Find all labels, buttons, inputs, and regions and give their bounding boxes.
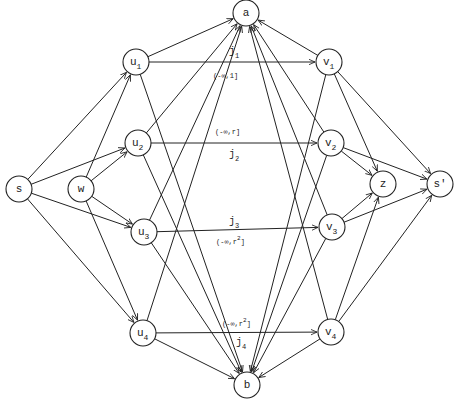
node-u2: u2 [125,130,151,156]
edge-v2-to-z [341,151,372,175]
node-v1: v1 [316,49,342,75]
node-s: s [6,176,32,202]
edge-u4-to-a [147,26,242,320]
edge-u1-to-a [148,19,233,57]
edge-u3-to-a [150,26,241,221]
edge-v2-to-b [252,155,327,371]
node-v3: v3 [319,214,345,240]
node-z: z [370,171,396,197]
edge-v1-to-sp [338,72,431,174]
edge-v4-to-z [335,197,378,320]
edge-v4-to-sp [339,195,432,321]
node-label: b [244,379,251,391]
edge-v2-to-a [254,25,324,132]
edge-u2-to-b [143,155,241,372]
edge-v4-to-b [259,339,320,378]
edge-label-interval: (-∞,1] [213,72,238,80]
edge-u4-to-b [155,339,235,379]
edge-v1-to-a [258,20,318,55]
edge-w-to-u2 [91,152,127,181]
edge-v3-to-z [342,193,372,219]
edge-v4-to-a [250,27,328,320]
edge-v3-to-b [254,238,326,372]
edge-w-to-u3 [92,196,133,224]
node-label: s [16,183,23,195]
edge-w-to-u1 [86,75,130,177]
edge-label-name: j2 [229,149,239,163]
node-label: a [243,7,250,19]
node-u1: u1 [123,49,149,75]
node-label: s' [433,178,446,190]
node-label: w [78,183,85,195]
edge-v1-to-z [334,74,377,171]
node-w: w [68,176,94,202]
node-v4: v4 [318,319,344,345]
graph-diagram: j1(-∞,1]j2(-∞,r]j3(-∞,r2]j4(-∞,r2] au1v1… [0,0,459,407]
nodes: au1v1u2v2swzs'u3v3u4v4b [6,0,453,398]
edge-label-interval: (-∞,r2] [222,317,251,328]
edge-label-name: j3 [229,216,239,230]
node-u4: u4 [130,320,156,346]
edge-label-interval: (-∞,r2] [216,235,245,246]
edge-label-name: j4 [236,337,246,351]
node-b: b [234,372,260,398]
edge-label-name: j1 [229,46,239,60]
node-v2: v2 [318,130,344,156]
node-sp: s' [427,171,453,197]
edge-s-to-u1 [28,72,127,179]
node-a: a [233,0,259,26]
edge-u3-to-b [151,243,239,374]
edge-v1-to-b [250,75,325,372]
node-u3: u3 [131,219,157,245]
edge-labels: j1(-∞,1]j2(-∞,r]j3(-∞,r2]j4(-∞,r2] [213,46,251,351]
edge-label-interval: (-∞,r] [215,128,240,136]
edge-w-to-u4 [86,201,137,320]
edge-s-to-u4 [28,199,134,323]
node-label: z [380,178,387,190]
edge-u4-to-v4 [156,332,317,333]
